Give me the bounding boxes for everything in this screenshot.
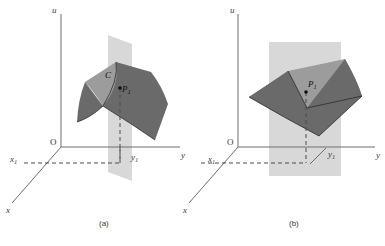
y1-mark-label-a: y1 <box>130 152 138 163</box>
x-axis-b <box>189 147 238 203</box>
panel-a: u y x O x1 y1 C P1 (a) <box>5 5 185 228</box>
u-axis-label-a: u <box>52 5 57 15</box>
y-axis-label-b: y <box>375 150 380 160</box>
x1-mark-label-a: x1 <box>9 154 17 165</box>
origin-label-a: O <box>50 137 57 147</box>
projection-dashes-a <box>24 147 120 163</box>
point-label-c-a: C <box>105 70 112 80</box>
x-axis-label-a: x <box>5 205 10 215</box>
x1-mark-label-b: x1 <box>207 154 215 165</box>
point-p1-dot-b <box>304 90 308 94</box>
x-axis-label-b: x <box>182 205 187 215</box>
caption-a: (a) <box>99 219 109 228</box>
figure-svg: u y x O x1 y1 C P1 (a) <box>0 0 385 246</box>
caption-b: (b) <box>289 219 299 228</box>
u-axis-label-b: u <box>230 5 235 15</box>
panel-b: u y x O x1 y1 P1 (b) <box>182 5 380 228</box>
y-axis-label-a: y <box>180 150 185 160</box>
figure-container: u y x O x1 y1 C P1 (a) <box>0 0 385 246</box>
origin-label-b: O <box>227 137 234 147</box>
x-axis-a <box>12 147 61 203</box>
